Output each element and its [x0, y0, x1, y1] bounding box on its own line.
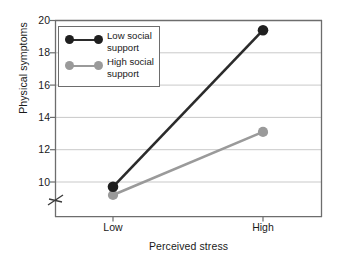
series-low-point-high [258, 25, 269, 36]
legend-swatch-high-social-support [65, 61, 103, 70]
line-chart-figure: 20 18 16 14 12 10 Low High Physical symp… [0, 0, 338, 260]
y-tick-label-14: 14 [26, 112, 50, 122]
legend-label-low-social-support: Low social support [107, 30, 165, 53]
legend-label-low-line1: Low social [107, 30, 165, 42]
y-tick-marks [50, 21, 55, 183]
y-axis-title: Physical symptoms [17, 0, 29, 143]
series-high-point-high [258, 127, 268, 137]
series-low-point-low [108, 182, 119, 193]
chart-legend: Low social support High social support [58, 26, 160, 87]
x-tick-label-high: High [228, 221, 298, 233]
legend-dot-high-right [94, 61, 103, 70]
y-tick-label-16: 16 [26, 80, 50, 90]
legend-item-low-social-support: Low social support [65, 32, 161, 58]
legend-swatch-low-social-support [65, 35, 103, 44]
legend-label-high-social-support: High social support [107, 56, 165, 79]
legend-dot-low-left [65, 35, 74, 44]
legend-item-high-social-support: High social support [65, 58, 161, 84]
legend-dot-high-left [65, 61, 74, 70]
legend-label-high-line1: High social [107, 56, 165, 68]
y-tick-label-10: 10 [26, 177, 50, 187]
x-axis-title: Perceived stress [55, 240, 322, 252]
x-tick-label-low: Low [78, 221, 148, 233]
legend-label-high-line2: support [107, 68, 165, 80]
chart-screenshot: 20 18 16 14 12 10 Low High Physical symp… [0, 0, 338, 260]
legend-dot-low-right [94, 35, 103, 44]
y-tick-label-20: 20 [26, 15, 50, 25]
y-tick-label-12: 12 [26, 144, 50, 154]
series-high-social-support [108, 127, 268, 200]
legend-label-low-line2: support [107, 42, 165, 54]
y-tick-label-18: 18 [26, 47, 50, 57]
